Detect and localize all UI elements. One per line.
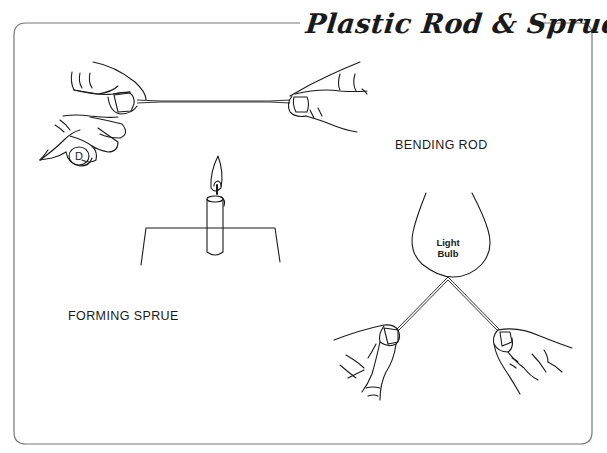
illustration-svg: D bbox=[0, 0, 607, 453]
bulb-label-line2: Bulb bbox=[428, 248, 468, 259]
candle-icon bbox=[141, 156, 280, 265]
thumbnail-mark: D bbox=[75, 150, 83, 162]
frame-border bbox=[14, 23, 592, 444]
bulb-label-line1: Light bbox=[428, 237, 468, 248]
lower-left-hand-icon bbox=[334, 325, 400, 400]
forming-sprue-label: FORMING SPRUE bbox=[68, 309, 179, 323]
light-bulb-label: Light Bulb bbox=[428, 237, 468, 259]
bent-rod bbox=[396, 277, 500, 331]
page-title: Plastic Rod & Sprue bbox=[298, 8, 533, 39]
illustration-canvas: D bbox=[0, 0, 607, 453]
right-hand-icon bbox=[288, 62, 367, 132]
light-bulb-icon bbox=[412, 193, 490, 277]
bending-rod-label: BENDING ROD bbox=[395, 138, 488, 152]
lower-right-hand-icon bbox=[494, 329, 573, 394]
plastic-rod bbox=[137, 100, 290, 103]
left-hands-icon bbox=[40, 62, 146, 166]
